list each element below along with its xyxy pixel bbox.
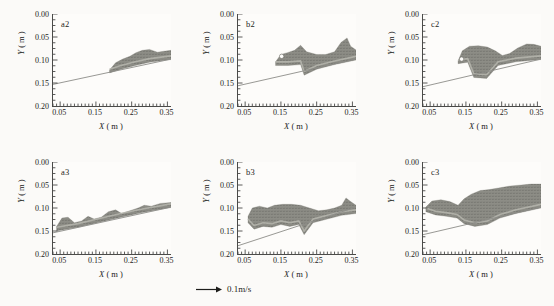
shear-layer-streak — [57, 204, 171, 227]
x-tick-label: 0.05 — [52, 256, 66, 265]
panel-c3: Y ( m )0.000.050.100.150.20c30.050.150.2… — [370, 148, 554, 296]
bed-slope-line — [53, 59, 171, 84]
velocity-vector-field — [423, 14, 541, 106]
y-tick-label: 0.00 — [405, 158, 419, 167]
y-tick-label: 0.15 — [220, 79, 234, 88]
x-tick-label: 0.35 — [159, 256, 173, 265]
y-tick-label: 0.05 — [220, 33, 234, 42]
y-tick-label: 0.20 — [220, 102, 234, 111]
panel-b2: Y ( m )0.000.050.100.150.20b20.050.150.2… — [185, 0, 370, 148]
y-tick-label: 0.10 — [35, 204, 49, 213]
x-tick-labels: 0.050.150.250.35 — [52, 108, 170, 120]
x-tick-label: 0.05 — [422, 108, 436, 117]
y-tick-label: 0.05 — [220, 181, 234, 190]
x-tick-label: 0.35 — [159, 108, 173, 117]
x-tick-labels: 0.050.150.250.35 — [237, 256, 355, 268]
velocity-vector-field — [238, 14, 356, 106]
y-tick-labels: 0.000.050.100.150.20 — [199, 14, 234, 106]
velocity-vector-field — [53, 162, 171, 254]
x-tick-label: 0.15 — [458, 108, 472, 117]
x-axis-title: X ( m ) — [52, 269, 170, 279]
y-tick-label: 0.00 — [405, 10, 419, 19]
x-axis-title: X ( m ) — [52, 121, 170, 131]
y-tick-label: 0.00 — [35, 158, 49, 167]
y-tick-label: 0.15 — [405, 79, 419, 88]
panel-label: c2 — [431, 19, 439, 29]
x-tick-labels: 0.050.150.250.35 — [237, 108, 355, 120]
y-tick-label: 0.00 — [220, 10, 234, 19]
velocity-vector-field — [53, 14, 171, 106]
panel-label: b3 — [246, 167, 255, 177]
x-tick-label: 0.25 — [494, 108, 508, 117]
x-tick-label: 0.25 — [309, 256, 323, 265]
x-axis-title: X ( m ) — [237, 121, 355, 131]
y-tick-label: 0.10 — [220, 204, 234, 213]
velocity-vector-field — [423, 162, 541, 254]
x-tick-label: 0.05 — [237, 256, 251, 265]
y-tick-label: 0.10 — [35, 56, 49, 65]
plot-area: a3 — [52, 162, 171, 255]
panel-c2: Y ( m )0.000.050.100.150.20c20.050.150.2… — [370, 0, 554, 148]
flow-region — [426, 184, 541, 226]
panel-a2: Y ( m )0.000.050.100.150.20a20.050.150.2… — [0, 0, 185, 148]
x-tick-label: 0.15 — [273, 108, 287, 117]
vortex-core — [459, 57, 463, 61]
y-tick-label: 0.10 — [405, 56, 419, 65]
x-tick-label: 0.25 — [494, 256, 508, 265]
x-tick-label: 0.15 — [88, 108, 102, 117]
x-tick-label: 0.15 — [458, 256, 472, 265]
x-tick-label: 0.35 — [529, 108, 543, 117]
x-tick-labels: 0.050.150.250.35 — [422, 108, 540, 120]
panel-label: b2 — [246, 19, 255, 29]
x-tick-label: 0.05 — [422, 256, 436, 265]
x-tick-label: 0.35 — [529, 256, 543, 265]
panel-label: a2 — [61, 19, 69, 29]
plot-area: c2 — [422, 14, 541, 107]
y-tick-labels: 0.000.050.100.150.20 — [384, 14, 419, 106]
x-axis-title: X ( m ) — [237, 269, 355, 279]
y-tick-labels: 0.000.050.100.150.20 — [384, 162, 419, 254]
y-tick-labels: 0.000.050.100.150.20 — [14, 162, 49, 254]
x-tick-labels: 0.050.150.250.35 — [422, 256, 540, 268]
figure-panel-grid: 0.1m/s Y ( m )0.000.050.100.150.20a20.05… — [0, 0, 554, 306]
plot-area: b3 — [237, 162, 356, 255]
x-tick-label: 0.05 — [52, 108, 66, 117]
y-tick-label: 0.05 — [35, 33, 49, 42]
y-tick-label: 0.20 — [35, 250, 49, 259]
y-tick-label: 0.20 — [405, 102, 419, 111]
plot-area: c3 — [422, 162, 541, 255]
x-tick-label: 0.05 — [237, 108, 251, 117]
y-tick-label: 0.05 — [35, 181, 49, 190]
x-tick-label: 0.15 — [88, 256, 102, 265]
x-tick-label: 0.25 — [124, 108, 138, 117]
panel-label: c3 — [431, 167, 439, 177]
panel-label: a3 — [61, 167, 69, 177]
flow-region — [276, 38, 356, 75]
plot-area: a2 — [52, 14, 171, 107]
y-tick-labels: 0.000.050.100.150.20 — [199, 162, 234, 254]
y-tick-label: 0.10 — [220, 56, 234, 65]
y-tick-label: 0.05 — [405, 33, 419, 42]
y-tick-label: 0.20 — [35, 102, 49, 111]
plot-area: b2 — [237, 14, 356, 107]
x-tick-label: 0.35 — [344, 256, 358, 265]
velocity-vector-field — [238, 162, 356, 254]
flow-region — [248, 198, 356, 235]
panel-b3: Y ( m )0.000.050.100.150.20b30.050.150.2… — [185, 148, 370, 296]
y-tick-label: 0.15 — [220, 227, 234, 236]
x-axis-title: X ( m ) — [422, 121, 540, 131]
panel-a3: Y ( m )0.000.050.100.150.20a30.050.150.2… — [0, 148, 185, 296]
x-tick-label: 0.25 — [309, 108, 323, 117]
y-tick-label: 0.15 — [35, 227, 49, 236]
y-tick-label: 0.10 — [405, 204, 419, 213]
y-tick-label: 0.15 — [405, 227, 419, 236]
vortex-core — [279, 54, 283, 58]
y-tick-label: 0.20 — [220, 250, 234, 259]
x-axis-title: X ( m ) — [422, 269, 540, 279]
y-tick-label: 0.05 — [405, 181, 419, 190]
y-tick-label: 0.00 — [35, 10, 49, 19]
x-tick-label: 0.15 — [273, 256, 287, 265]
y-tick-label: 0.15 — [35, 79, 49, 88]
x-tick-labels: 0.050.150.250.35 — [52, 256, 170, 268]
y-tick-label: 0.20 — [405, 250, 419, 259]
